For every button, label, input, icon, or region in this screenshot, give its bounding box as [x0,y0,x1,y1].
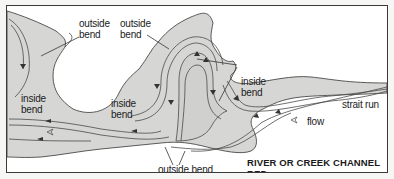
label-outside-bend-1: outside bend [79,18,110,40]
diagram-title: RIVER OR CREEK CHANNEL BED [247,157,387,173]
label-outside-bend-bottom: outside bend [158,164,213,173]
label-strait-run: strait run [342,99,379,110]
label-inside-bend-right: inside bend [241,76,266,98]
label-inside-bend-middle: inside bend [111,98,136,120]
label-flow: flow [307,116,324,127]
river-channel-illustration [7,6,387,172]
inner-land-left [65,33,72,47]
label-inside-bend-left: inside bend [21,93,46,115]
label-outside-bend-2: outside bend [120,18,151,40]
diagram-frame: outside bend outside bend inside bend in… [6,5,388,173]
